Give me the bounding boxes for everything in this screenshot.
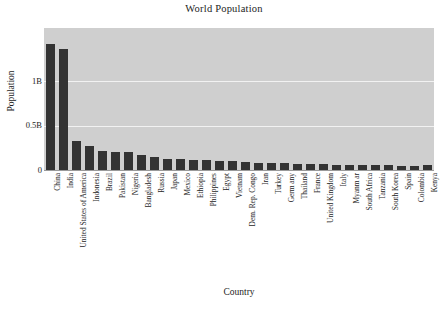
x-axis-tick-label-text: Japan — [171, 171, 179, 281]
x-axis-tick-label: China — [54, 61, 62, 171]
x-axis-tick-label-text: Pakistan — [119, 171, 127, 281]
x-axis-tick-label: Pakistan — [119, 61, 127, 171]
x-axis-tick-label: Mexico — [184, 61, 192, 171]
x-axis-tick-label: Germ any — [288, 61, 296, 171]
x-axis-tick-label: Japan — [171, 61, 179, 171]
x-axis-tick-label: Colombia — [418, 61, 426, 171]
x-axis-tick-label-text: Indonesia — [93, 171, 101, 281]
x-axis-tick-label-text: Ethiopia — [197, 171, 205, 281]
x-axis-tick-label-text: Brazil — [106, 171, 114, 281]
x-axis-tick-label: Russia — [158, 61, 166, 171]
x-axis-tick-label-text: United Kingdom — [327, 171, 335, 281]
x-axis-tick-label: Egypt — [223, 61, 231, 171]
x-axis-tick-label-text: Spain — [405, 171, 413, 281]
x-axis-tick-label-text: South Africa — [366, 171, 374, 281]
x-axis-tick-label: Italy — [340, 61, 348, 171]
x-axis-tick-label-text: Turkey — [275, 171, 283, 281]
x-axis-tick-label: Brazil — [106, 61, 114, 171]
x-axis-tick-label-text: Italy — [340, 171, 348, 281]
x-axis-tick-label-text: Tanzania — [379, 171, 387, 281]
x-axis-tick-label: Tanzania — [379, 61, 387, 171]
x-axis-tick-label-text: Vietnam — [236, 171, 244, 281]
x-axis-tick-label: Ethiopia — [197, 61, 205, 171]
x-axis-tick-label: South Korea — [392, 61, 400, 171]
x-axis-tick-label-text: China — [54, 171, 62, 281]
x-axis-tick-label-text: Nigeria — [132, 171, 140, 281]
x-axis-tick-label: Bangladesh — [145, 61, 153, 171]
x-axis-tick-label-text: Iran — [262, 171, 270, 281]
x-axis-tick-label-text: Thailand — [301, 171, 309, 281]
x-axis-tick-label-text: India — [67, 171, 75, 281]
x-axis-tick-label: Myanm ar — [353, 61, 361, 171]
x-axis-tick-label-text: Colombia — [418, 171, 426, 281]
x-axis-tick-label: Indonesia — [93, 61, 101, 171]
x-axis-tick-label: Philippines — [210, 61, 218, 171]
x-axis-tick-label: Thailand — [301, 61, 309, 171]
x-axis-tick-labels: ChinaIndiaUnited States of AmericaIndone… — [44, 171, 434, 281]
x-axis-tick-label-text: Mexico — [184, 171, 192, 281]
x-axis-tick-label: Turkey — [275, 61, 283, 171]
x-axis-tick-label-text: Myanm ar — [353, 171, 361, 281]
x-axis-tick-label-text: South Korea — [392, 171, 400, 281]
x-axis-tick-label-text: Russia — [158, 171, 166, 281]
x-axis-tick-label-text: France — [314, 171, 322, 281]
x-axis-tick-label-text: Egypt — [223, 171, 231, 281]
x-axis-tick-label-text: Philippines — [210, 171, 218, 281]
x-axis-tick-label-text: Bangladesh — [145, 171, 153, 281]
x-axis-tick-label: United States of America — [80, 61, 88, 171]
y-axis-tick-label: 0.5B — [2, 121, 42, 130]
x-axis-title: Country — [44, 287, 434, 297]
x-axis-tick-label: United Kingdom — [327, 61, 335, 171]
x-axis-tick-label: Kenya — [431, 61, 439, 171]
chart-figure: World Population Population 00.5B1B Chin… — [0, 0, 448, 314]
x-axis-tick-label-text: United States of America — [80, 171, 88, 281]
x-axis-tick-label: France — [314, 61, 322, 171]
x-axis-tick-label-text: Germ any — [288, 171, 296, 281]
x-axis-tick-label: Spain — [405, 61, 413, 171]
x-axis-tick-label: India — [67, 61, 75, 171]
x-axis-tick-label-text: Dem. Rep. Congo — [249, 171, 257, 281]
x-axis-tick-label: Nigeria — [132, 61, 140, 171]
x-axis-tick-label: Dem. Rep. Congo — [249, 61, 257, 171]
y-axis-title: Population — [6, 56, 16, 126]
y-axis-tick-label: 0 — [2, 166, 42, 175]
x-axis-tick-label: Iran — [262, 61, 270, 171]
page-title: World Population — [0, 3, 448, 14]
y-axis-tick-label: 1B — [2, 77, 42, 86]
x-axis-tick-label: Vietnam — [236, 61, 244, 171]
x-axis-tick-label-text: Kenya — [431, 171, 439, 281]
y-axis: Population 00.5B1B — [0, 0, 42, 314]
x-axis-tick-label: South Africa — [366, 61, 374, 171]
